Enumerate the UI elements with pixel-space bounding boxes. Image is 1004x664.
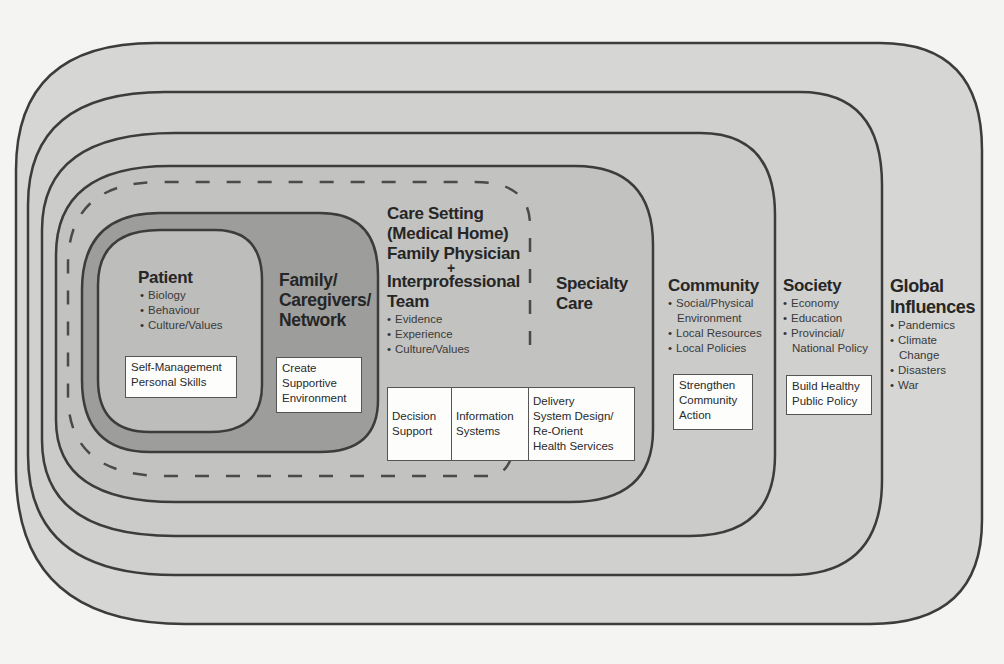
global-bullet: War — [890, 378, 982, 393]
box-line: Strengthen — [679, 378, 747, 393]
title-line: Network — [279, 310, 371, 330]
patient-bullet: Culture/Values — [140, 318, 223, 333]
title-line: Care — [556, 294, 628, 314]
box-line: Information — [456, 409, 524, 424]
care-setting-section: Care Setting (Medical Home) Family Physi… — [387, 204, 520, 357]
box-line: Action — [679, 408, 747, 423]
decision-support-box: Decision Support — [388, 388, 451, 460]
box-line: Build Healthy — [792, 379, 866, 394]
title-line: Influences — [890, 297, 982, 318]
build-healthy-public-policy-box: Build Healthy Public Policy — [786, 375, 872, 415]
community-bullet: Social/Physical Environment — [668, 296, 767, 326]
global-bullet: Climate Change — [890, 333, 961, 363]
strengthen-community-action-box: Strengthen Community Action — [673, 374, 753, 430]
title-line: Specialty — [556, 274, 628, 294]
box-line: Supportive — [282, 376, 356, 391]
supportive-environment-box: Create Supportive Environment — [276, 357, 362, 413]
box-line: Health Services — [533, 439, 630, 454]
box-line: Systems — [456, 424, 524, 439]
box-line: System Design/ — [533, 409, 630, 424]
care-setting-bullet: Culture/Values — [387, 342, 520, 357]
global-section: Global Influences Pandemics Climate Chan… — [890, 276, 982, 393]
title-line: Interprofessional — [387, 272, 520, 292]
patient-bullet: Behaviour — [140, 303, 223, 318]
box-line: Delivery — [533, 394, 630, 409]
global-bullet: Disasters — [890, 363, 982, 378]
society-section: Society Economy Education Provincial/ Na… — [783, 276, 883, 356]
box-line: Community — [679, 393, 747, 408]
community-title: Community — [668, 276, 774, 296]
title-line: Caregivers/ — [279, 290, 371, 310]
care-setting-bullet: Experience — [387, 327, 520, 342]
title-line: Team — [387, 292, 520, 312]
community-bullet: Local Resources — [668, 326, 774, 341]
care-setting-bullet: Evidence — [387, 312, 520, 327]
society-bullet: Provincial/ National Policy — [783, 326, 880, 356]
box-line: Re-Orient — [533, 424, 630, 439]
care-setting-title: Care Setting (Medical Home) Family Physi… — [387, 204, 520, 312]
patient-section: Patient Biology Behaviour Culture/Values — [138, 268, 223, 333]
society-title: Society — [783, 276, 883, 296]
box-line: Support — [392, 424, 447, 439]
global-title: Global Influences — [890, 276, 982, 318]
society-bullet: Education — [783, 311, 883, 326]
delivery-system-design-box: Delivery System Design/ Re-Orient Health… — [528, 388, 634, 460]
box-line: Environment — [282, 391, 356, 406]
community-section: Community Social/Physical Environment Lo… — [668, 276, 774, 356]
plus-sign: + — [387, 264, 520, 272]
box-line: Public Policy — [792, 394, 866, 409]
box-line: Decision — [392, 409, 447, 424]
patient-bullet: Biology — [140, 288, 223, 303]
society-bullet: Economy — [783, 296, 883, 311]
family-title: Family/ Caregivers/ Network — [279, 270, 371, 330]
global-bullet: Pandemics — [890, 318, 982, 333]
title-line: Family/ — [279, 270, 371, 290]
box-line: Create — [282, 361, 356, 376]
title-line: Global — [890, 276, 982, 297]
box-line: Self-Management — [131, 360, 231, 375]
patient-title: Patient — [138, 268, 223, 288]
information-systems-box: Information Systems — [451, 388, 528, 460]
box-line: Personal Skills — [131, 375, 231, 390]
title-line: Care Setting — [387, 204, 520, 224]
community-bullet: Local Policies — [668, 341, 774, 356]
title-line: (Medical Home) — [387, 224, 520, 244]
care-setting-action-boxes: Decision Support Information Systems Del… — [387, 387, 635, 461]
self-management-box: Self-Management Personal Skills — [125, 356, 237, 398]
specialty-care-title: Specialty Care — [556, 274, 628, 314]
